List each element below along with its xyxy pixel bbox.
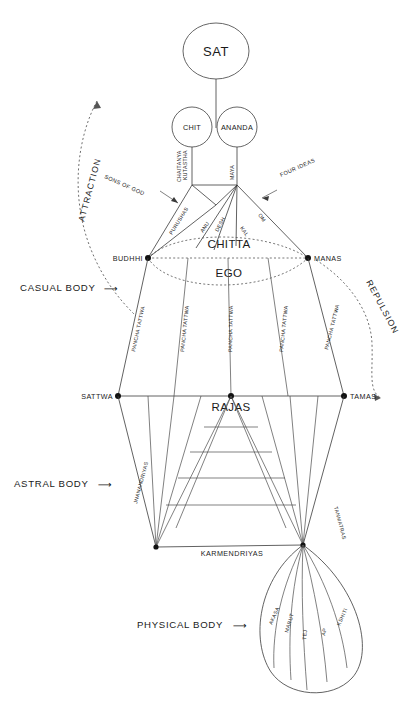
- physical-seg-2: [290, 545, 303, 680]
- four-ideas-arrowhead: [262, 196, 269, 201]
- sons-of-god-label: SONS OF GOD: [104, 173, 146, 196]
- kal-line: [236, 185, 237, 246]
- astral-left-ray-1: [148, 396, 156, 547]
- jnanandriyas-label: JNANANDRIYAS: [132, 461, 149, 505]
- anu-label: ANU: [199, 220, 210, 233]
- maya-label: MAYA: [229, 165, 235, 180]
- kutastha-label: KUTASTHA: [182, 150, 188, 180]
- astral-left-ray-2: [156, 396, 174, 547]
- tanmatras-label: TANMATRAS: [333, 506, 348, 541]
- astral-left-ray-4: [156, 396, 231, 547]
- pancha-tattwa-label-4: PANCHA TATTWA: [278, 305, 289, 352]
- pancha-tattwa-label-2: PANCHA TATTWA: [179, 305, 190, 352]
- chitta-label: CHITTA: [207, 238, 250, 250]
- chit-label: CHIT: [183, 123, 201, 132]
- casual-body-arrow: ⟶: [104, 283, 118, 294]
- manas-label: MANAS: [314, 254, 342, 263]
- ananda-node: ANANDA: [217, 107, 257, 147]
- kal-label: KAL: [239, 225, 250, 237]
- sat-label: SAT: [203, 44, 229, 59]
- astral-body-label: ASTRAL BODY: [14, 478, 89, 489]
- attraction-arrowhead: [93, 101, 101, 109]
- purushas-label: PURUSHAS: [168, 206, 190, 236]
- physical-body-arrow: ⟶: [233, 620, 247, 631]
- four-ideas-arrow-shaft: [262, 190, 277, 198]
- cosmology-diagram: SAT CHIT ANANDA KUTASTHA CHAITANYA MAYA …: [0, 0, 417, 704]
- chit-node: CHIT: [172, 107, 212, 147]
- sattwa-label: SATTWA: [81, 392, 113, 401]
- ego-label: EGO: [216, 267, 243, 279]
- rajas-triangle-left: [176, 396, 231, 528]
- attraction-label: ATTRACTION: [76, 157, 103, 223]
- tamas-label: TAMAS: [350, 392, 376, 401]
- casual-left-edge: [118, 258, 148, 396]
- om-label: OM: [257, 212, 267, 223]
- astral-left-vertex: [153, 544, 158, 549]
- element-label-marut: MARUT: [283, 612, 295, 633]
- element-label-tej: TEJ: [301, 629, 308, 640]
- sat-node: SAT: [183, 23, 249, 79]
- astral-body-arrow: ⟶: [98, 479, 112, 490]
- element-label-akasa: AKASA: [267, 606, 280, 626]
- left-inner-ray: [192, 185, 216, 205]
- rajas-label: RAJAS: [211, 401, 250, 413]
- karmendriyas-label: KARMENDRIYAS: [201, 549, 263, 558]
- rajas-triangle-right: [231, 396, 286, 528]
- astral-right-ray-4: [303, 396, 318, 545]
- buddhi-label: BUDHHI: [113, 254, 143, 263]
- pancha-tattwa-label-3: PANCHA TATTWA: [227, 305, 234, 352]
- repulsion-label: REPULSION: [364, 278, 401, 335]
- sons-of-god-arrowhead: [171, 197, 178, 203]
- element-label-kshiti: KSHITI: [335, 607, 348, 626]
- jnanandriyas-edge: [118, 396, 156, 547]
- casual-right-edge: [308, 258, 344, 396]
- astral-left-ray-3: [156, 396, 201, 547]
- chaitanya-label: CHAITANYA: [176, 150, 182, 182]
- karmendriyas-line: [156, 545, 303, 547]
- physical-seg-3: [302, 545, 307, 690]
- casual-body-label: CASUAL BODY: [20, 282, 96, 293]
- purushas-line: [148, 185, 192, 258]
- ananda-label: ANANDA: [221, 123, 253, 132]
- element-label-ap: AP: [320, 627, 327, 636]
- four-ideas-label: FOUR IDEAS: [279, 157, 316, 178]
- physical-body-label: PHYSICAL BODY: [137, 619, 223, 630]
